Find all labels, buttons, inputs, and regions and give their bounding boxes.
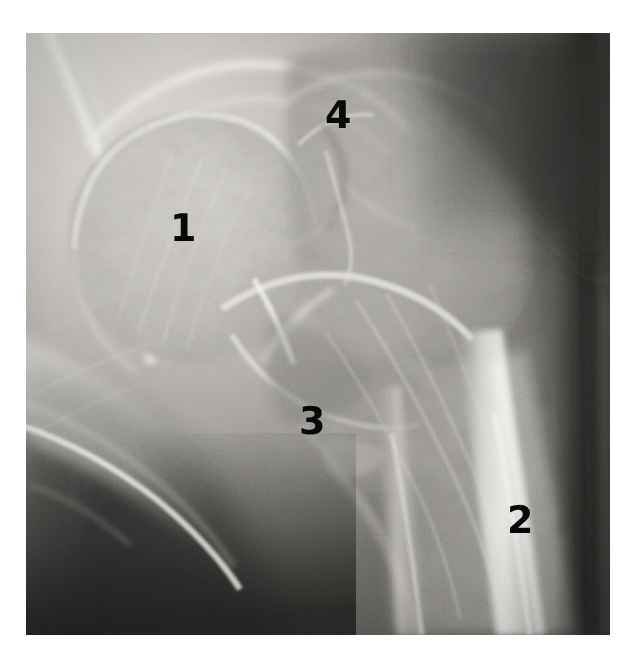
xray-image — [26, 33, 610, 635]
xray-plate — [26, 33, 610, 635]
xray-label-2: 2 — [507, 501, 533, 539]
radiograph-figure: 1 2 3 4 — [0, 0, 637, 658]
xray-label-4: 4 — [325, 96, 351, 134]
xray-label-1: 1 — [170, 209, 196, 247]
xray-label-3: 3 — [299, 402, 325, 440]
